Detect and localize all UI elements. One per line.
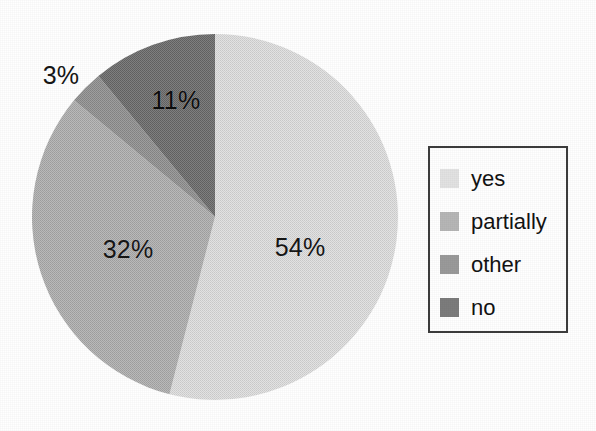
slice-label-other: 3% (43, 61, 80, 90)
legend-item-other: other (430, 243, 566, 286)
pie-chart-figure: 54% 32% 3% 11% yes partially other no (0, 0, 596, 431)
chart-legend: yes partially other no (428, 146, 568, 333)
legend-label-partially: partially (471, 211, 547, 233)
legend-swatch-other (440, 255, 459, 274)
legend-swatch-yes (440, 169, 459, 188)
legend-swatch-no (440, 298, 459, 317)
slice-label-no: 11% (152, 86, 201, 115)
legend-item-yes: yes (430, 157, 566, 200)
legend-item-no: no (430, 286, 566, 329)
slice-label-yes: 54% (275, 233, 326, 262)
legend-swatch-partially (440, 212, 459, 231)
legend-label-yes: yes (471, 168, 505, 190)
legend-label-other: other (471, 254, 521, 276)
legend-item-partially: partially (430, 200, 566, 243)
legend-label-no: no (471, 297, 495, 319)
slice-label-partially: 32% (103, 235, 154, 264)
